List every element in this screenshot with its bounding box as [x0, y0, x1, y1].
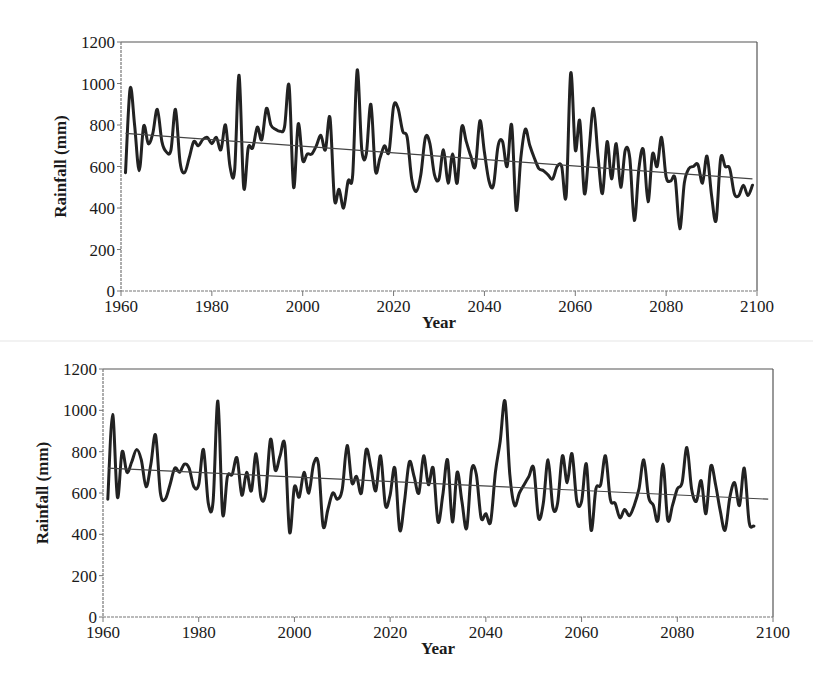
- y-tick-label: 200: [72, 567, 98, 586]
- y-tick-label: 600: [72, 484, 98, 503]
- y-axis-title: Rainfall (mm): [33, 442, 52, 544]
- y-tick-label: 1200: [63, 360, 97, 379]
- y-tick-label: 400: [72, 525, 98, 544]
- x-tick-label: 1980: [182, 623, 216, 642]
- bottom-chart-canvas: 0200400600800100012001960198020002020204…: [0, 0, 813, 688]
- x-tick-label: 1960: [86, 623, 120, 642]
- y-tick-label: 1000: [63, 401, 97, 420]
- x-axis-title: Year: [421, 639, 455, 658]
- x-tick-label: 2000: [277, 623, 311, 642]
- x-tick-label: 2080: [660, 623, 694, 642]
- x-tick-label: 2020: [373, 623, 407, 642]
- y-tick-label: 800: [72, 443, 98, 462]
- rainfall-series-line: [108, 400, 754, 533]
- x-tick-label: 2100: [756, 623, 790, 642]
- x-tick-label: 2060: [565, 623, 599, 642]
- bottom-rainfall-chart: 0200400600800100012001960198020002020204…: [0, 0, 813, 688]
- x-tick-label: 2040: [469, 623, 503, 642]
